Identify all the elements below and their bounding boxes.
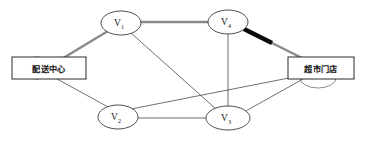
node-v3[interactable]: V3 bbox=[206, 106, 250, 130]
node-supermarket-store[interactable]: 超市门店 bbox=[288, 57, 354, 79]
edge-v4-store-bold-segment bbox=[244, 29, 272, 43]
node-v2[interactable]: V2 bbox=[98, 105, 138, 129]
edge-v1-v3 bbox=[131, 33, 216, 109]
edge-group-thin bbox=[57, 33, 303, 118]
edge-group-highlight bbox=[60, 22, 304, 60]
node-v1[interactable]: V1 bbox=[101, 11, 141, 35]
graph-canvas: V1 V4 V2 V3 配送中心 超市门 bbox=[0, 0, 368, 142]
node-v4[interactable]: V4 bbox=[208, 10, 248, 34]
edge-v2-store bbox=[126, 76, 299, 110]
node-distribution-center[interactable]: 配送中心 bbox=[12, 57, 86, 79]
edge-dc-v2 bbox=[57, 79, 110, 108]
network-diagram: V1 V4 V2 V3 配送中心 超市门 bbox=[0, 0, 368, 142]
node-distribution-center-label: 配送中心 bbox=[32, 64, 66, 74]
edge-v3-store bbox=[244, 79, 303, 112]
edge-dc-v1-highlight bbox=[60, 31, 108, 60]
node-supermarket-store-label: 超市门店 bbox=[303, 64, 337, 74]
